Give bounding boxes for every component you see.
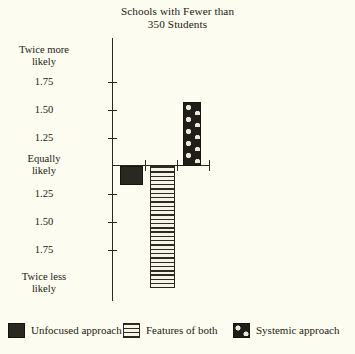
y-label-neg-125: 1.25 (1, 188, 87, 200)
y-tick-neg-125 (108, 194, 117, 195)
y-label-line-2: likely (1, 165, 87, 177)
y-label-twice-less-likely: Twice less likely (1, 271, 87, 296)
y-label-line-1: Twice less (1, 271, 87, 283)
y-label-line-1: Equally (1, 153, 87, 165)
bar-unfocused-approach (120, 166, 143, 185)
legend-swatch-horizontal-stripes-icon (123, 323, 140, 338)
y-label-equally-likely: Equally likely (1, 153, 87, 178)
legend-label-unfocused-approach: Unfocused approach (31, 324, 122, 337)
y-label-pos-125: 1.25 (1, 132, 87, 144)
bar-systemic-approach (183, 102, 201, 166)
bar-features-of-both (150, 166, 175, 288)
y-label-pos-175: 1.75 (1, 76, 87, 88)
legend-label-systemic-approach: Systemic approach (256, 324, 339, 337)
y-label-line-1: Twice more (1, 44, 87, 56)
legend-item-features-of-both: Features of both (123, 320, 217, 340)
x-tick-2 (177, 160, 178, 171)
y-label-neg-175: 1.75 (1, 244, 87, 256)
y-label-neg-150: 1.50 (1, 216, 87, 228)
legend-swatch-dots-icon (233, 323, 250, 338)
plot-area: Twice more likely 1.75 1.50 1.25 Equally… (0, 0, 355, 310)
legend-item-systemic-approach: Systemic approach (233, 320, 339, 340)
y-tick-pos-150 (108, 110, 117, 111)
y-label-twice-more-likely: Twice more likely (1, 44, 87, 69)
y-tick-neg-150 (108, 222, 117, 223)
x-tick-3 (209, 160, 210, 171)
y-label-line-2: likely (1, 283, 87, 295)
chart-legend: Unfocused approach Features of both Syst… (0, 320, 355, 346)
legend-swatch-solid-icon (8, 323, 25, 338)
legend-item-unfocused-approach: Unfocused approach (8, 320, 122, 340)
y-tick-neg-175 (108, 250, 117, 251)
y-label-line-2: likely (1, 56, 87, 68)
y-tick-pos-125 (108, 138, 117, 139)
y-tick-pos-175 (108, 82, 117, 83)
y-label-pos-150: 1.50 (1, 104, 87, 116)
x-tick-1 (145, 160, 146, 171)
legend-label-features-of-both: Features of both (146, 324, 217, 337)
x-tick-0 (112, 160, 113, 171)
chart-figure: Schools with Fewer than 350 Students Twi… (0, 0, 355, 354)
